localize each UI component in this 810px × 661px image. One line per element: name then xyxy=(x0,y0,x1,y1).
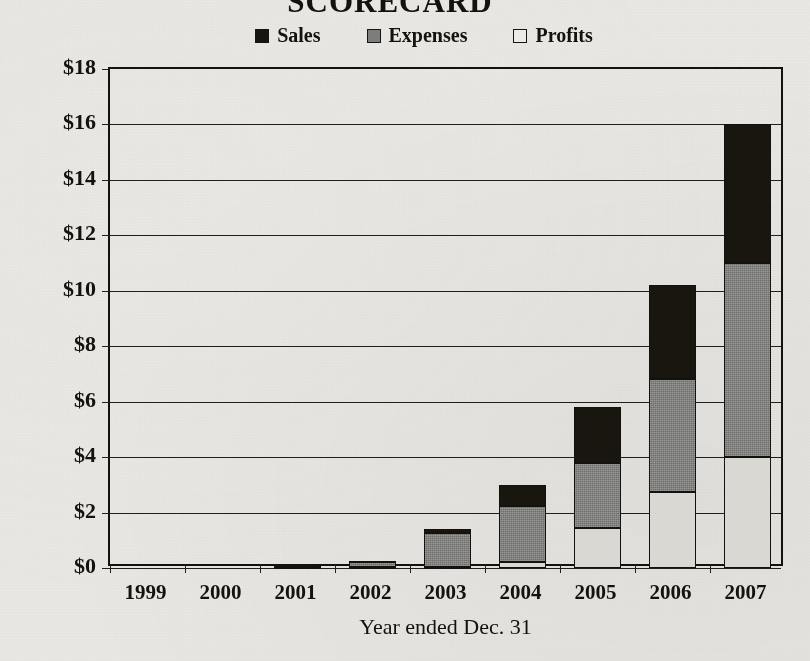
x-axis-label: 2005 xyxy=(575,580,617,605)
bar-segment-sales xyxy=(724,124,771,263)
legend-label-expenses: Expenses xyxy=(389,24,468,47)
x-axis-label: 2004 xyxy=(500,580,542,605)
bar-series-group xyxy=(110,69,781,564)
bar-segment-sales xyxy=(574,407,621,462)
bar-stack xyxy=(499,69,546,564)
bar-segment-profits xyxy=(424,567,471,569)
chart-page: SCORECARD Sales Expenses Profits $0$2$4$… xyxy=(0,0,810,661)
bar-segment-expenses xyxy=(574,463,621,528)
x-axis-label: 1999 xyxy=(125,580,167,605)
x-axis-tick xyxy=(110,564,111,573)
y-axis-label: $16 xyxy=(12,109,96,135)
y-axis-label: $0 xyxy=(12,553,96,579)
y-axis-tick xyxy=(102,291,110,292)
bar-segment-sales xyxy=(424,529,471,533)
x-axis-label: 2001 xyxy=(275,580,317,605)
x-axis-label: 2003 xyxy=(425,580,467,605)
x-axis-tick xyxy=(485,564,486,573)
bar-segment-profits xyxy=(574,528,621,568)
legend-item-expenses: Expenses xyxy=(367,24,468,47)
y-axis-tick xyxy=(102,513,110,514)
bar-stack xyxy=(199,69,246,564)
plot-area xyxy=(108,67,783,566)
y-axis-tick xyxy=(102,124,110,125)
bar-stack xyxy=(274,69,321,564)
y-axis-tick xyxy=(102,69,110,70)
bar-segment-profits xyxy=(724,457,771,568)
x-axis-tick xyxy=(635,564,636,573)
bar-segment-sales xyxy=(349,561,396,563)
legend-label-sales: Sales xyxy=(277,24,320,47)
legend-label-profits: Profits xyxy=(535,24,592,47)
x-axis-caption: Year ended Dec. 31 xyxy=(108,614,783,640)
bar-segment-sales xyxy=(499,485,546,506)
x-axis-tick xyxy=(260,564,261,573)
legend-item-profits: Profits xyxy=(513,24,592,47)
x-axis-label: 2002 xyxy=(350,580,392,605)
x-axis-tick xyxy=(410,564,411,573)
y-axis-tick xyxy=(102,346,110,347)
bar-segment-expenses xyxy=(349,562,396,567)
bar-segment-expenses xyxy=(649,379,696,491)
y-axis-label: $4 xyxy=(12,442,96,468)
y-axis-tick xyxy=(102,457,110,458)
y-axis-label: $14 xyxy=(12,165,96,191)
y-axis-label: $10 xyxy=(12,276,96,302)
x-axis-tick xyxy=(710,564,711,573)
y-axis-label: $6 xyxy=(12,387,96,413)
y-axis-tick xyxy=(102,180,110,181)
x-axis-tick xyxy=(560,564,561,573)
bar-segment-expenses xyxy=(499,506,546,563)
y-axis-label: $12 xyxy=(12,220,96,246)
y-axis-tick xyxy=(102,402,110,403)
bar-stack xyxy=(574,69,621,564)
bar-segment-profits xyxy=(349,567,396,569)
chart-legend: Sales Expenses Profits xyxy=(0,24,810,47)
bar-stack xyxy=(124,69,171,564)
bar-stack xyxy=(649,69,696,564)
bar-segment-sales xyxy=(274,566,321,568)
black-square-icon xyxy=(255,29,269,43)
x-axis-label: 2006 xyxy=(650,580,692,605)
y-axis-label: $18 xyxy=(12,54,96,80)
legend-item-sales: Sales xyxy=(255,24,320,47)
bar-segment-profits xyxy=(499,562,546,568)
x-axis-tick xyxy=(185,564,186,573)
gray-square-icon xyxy=(367,29,381,43)
chart-title: SCORECARD xyxy=(0,0,810,20)
bar-segment-profits xyxy=(649,492,696,568)
bar-stack xyxy=(424,69,471,564)
y-axis-label: $2 xyxy=(12,498,96,524)
x-axis-label: 2000 xyxy=(200,580,242,605)
y-axis-tick xyxy=(102,568,110,569)
x-axis-label: 2007 xyxy=(725,580,767,605)
bar-segment-expenses xyxy=(724,263,771,457)
bar-stack xyxy=(349,69,396,564)
x-axis-tick xyxy=(335,564,336,573)
bar-stack xyxy=(724,69,771,564)
bar-segment-expenses xyxy=(424,533,471,566)
bar-segment-sales xyxy=(649,285,696,379)
y-axis-tick xyxy=(102,235,110,236)
white-square-icon xyxy=(513,29,527,43)
y-axis-label: $8 xyxy=(12,331,96,357)
